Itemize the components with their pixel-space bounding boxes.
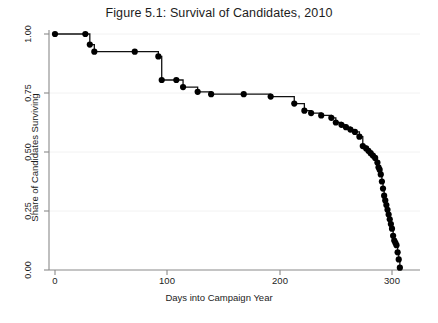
- data-point: [333, 119, 339, 125]
- data-point: [268, 93, 274, 99]
- data-point: [301, 108, 307, 114]
- data-point: [379, 178, 385, 184]
- data-point: [241, 91, 247, 97]
- data-point: [396, 256, 402, 262]
- survival-data-points: [52, 31, 403, 271]
- data-point: [397, 265, 403, 271]
- x-axis-ticks: [55, 270, 392, 275]
- data-point: [356, 134, 362, 140]
- data-point: [195, 89, 201, 95]
- survival-plot: [0, 0, 438, 323]
- data-point: [291, 101, 297, 107]
- data-point: [380, 185, 386, 191]
- data-point: [378, 171, 384, 177]
- data-point: [395, 249, 401, 255]
- data-point: [328, 115, 334, 121]
- data-point: [52, 31, 58, 37]
- data-point: [82, 31, 88, 37]
- data-point: [87, 42, 93, 48]
- gridlines: [49, 34, 420, 211]
- data-point: [91, 49, 97, 55]
- data-point: [155, 53, 161, 59]
- data-point: [159, 77, 165, 83]
- data-point: [180, 84, 186, 90]
- survival-step-line: [55, 34, 400, 268]
- data-point: [308, 110, 314, 116]
- data-point: [208, 91, 214, 97]
- data-point: [132, 49, 138, 55]
- data-point: [389, 226, 395, 232]
- data-point: [393, 242, 399, 248]
- data-point: [173, 77, 179, 83]
- data-point: [352, 129, 358, 135]
- figure-container: Figure 5.1: Survival of Candidates, 2010…: [0, 0, 438, 323]
- data-point: [318, 112, 324, 118]
- y-axis-ticks: [44, 34, 49, 270]
